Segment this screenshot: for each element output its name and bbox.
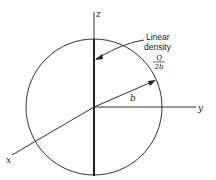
density-leader-arrowhead xyxy=(95,54,103,60)
density-denominator: 2b xyxy=(154,63,164,71)
radius-arrowhead xyxy=(148,80,156,86)
radius-arrow xyxy=(94,81,154,107)
y-axis-label: y xyxy=(197,103,204,113)
density-numerator: Q xyxy=(156,54,162,62)
radius-label: b xyxy=(130,93,136,103)
annotation-line1: Linear xyxy=(146,32,170,42)
x-axis xyxy=(12,107,94,155)
sphere-line-charge-diagram: z y x b Linear density Q 2b xyxy=(0,0,216,180)
annotation-line2: density xyxy=(144,42,172,52)
x-axis-label: x xyxy=(6,155,11,165)
density-leader-arrow xyxy=(96,40,144,59)
z-axis-label: z xyxy=(95,9,101,19)
